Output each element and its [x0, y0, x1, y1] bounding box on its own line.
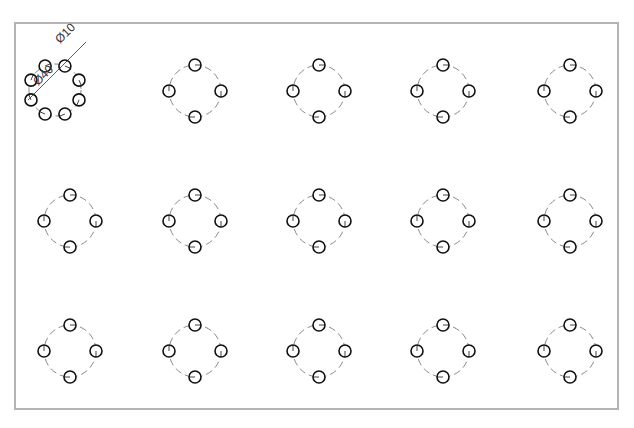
bolt-pattern [25, 60, 85, 120]
bolt-circle-centerline [417, 65, 469, 117]
bolt-circle-centerline [544, 195, 596, 247]
bolt-pattern [287, 319, 351, 383]
bolt-circle-centerline [293, 65, 345, 117]
bolt-pattern [163, 59, 227, 123]
hole-pattern-grid [38, 59, 602, 383]
bolt-circle-centerline [169, 195, 221, 247]
bolt-pattern [38, 319, 102, 383]
bolt-pattern [38, 189, 102, 253]
detail-pattern-8-holes [25, 60, 85, 120]
bolt-pattern [411, 59, 475, 123]
bolt-pattern [287, 59, 351, 123]
bolt-pattern [538, 319, 602, 383]
bolt-pattern [411, 189, 475, 253]
bolt-circle-centerline [169, 325, 221, 377]
bolt-circle-centerline [544, 325, 596, 377]
bolt-circle-centerline [293, 325, 345, 377]
bolt-pattern [411, 319, 475, 383]
bolt-pattern [163, 189, 227, 253]
bolt-circle-centerline [44, 325, 96, 377]
bolt-pattern [287, 189, 351, 253]
bolt-pattern [538, 59, 602, 123]
bolt-circle-centerline [417, 325, 469, 377]
bolt-circle-centerline [417, 195, 469, 247]
drawing-canvas: Ø10Ø40 [0, 0, 634, 428]
bolt-circle-centerline [293, 195, 345, 247]
dimension-labels: Ø10Ø40 [28, 20, 86, 100]
bolt-circle-centerline [44, 195, 96, 247]
sheet-border [15, 23, 618, 409]
bolt-circle-centerline [544, 65, 596, 117]
bolt-pattern [538, 189, 602, 253]
bolt-pattern [163, 319, 227, 383]
bolt-circle-centerline [169, 65, 221, 117]
